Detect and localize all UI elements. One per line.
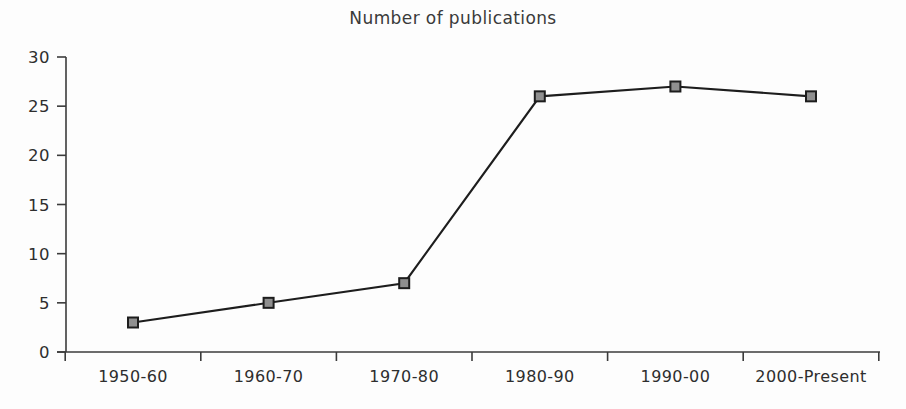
data-point-marker [535,91,545,101]
x-tick-label: 1970-80 [369,367,439,386]
y-tick-label: 5 [39,294,50,313]
x-tick-label: 1980-90 [505,367,575,386]
y-tick-label: 30 [28,48,50,67]
data-point-marker [264,298,274,308]
x-tick-label: 1960-70 [234,367,304,386]
line-chart-plot: 051015202530 1950-601960-701970-801980-9… [0,0,906,409]
x-tick-label: 2000-Present [755,367,866,386]
y-tick-label: 0 [39,343,50,362]
y-axis: 051015202530 [28,48,66,362]
data-point-marker [128,318,138,328]
data-point-marker [399,278,409,288]
series-line-publications [133,87,811,323]
data-point-marker [806,91,816,101]
y-tick-label: 25 [28,97,50,116]
y-tick-label: 20 [28,146,50,165]
chart-container: Number of publications 051015202530 1950… [0,0,906,409]
x-axis: 1950-601960-701970-801980-901990-002000-… [57,352,880,386]
data-series [128,82,816,328]
x-tick-label: 1990-00 [641,367,711,386]
x-tick-label: 1950-60 [98,367,168,386]
data-point-marker [670,82,680,92]
y-tick-label: 15 [28,196,50,215]
y-tick-label: 10 [28,245,50,264]
